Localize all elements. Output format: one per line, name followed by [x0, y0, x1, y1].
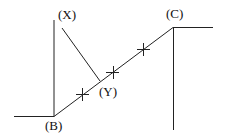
tick-mark [106, 66, 119, 79]
label-b: (B) [45, 118, 62, 133]
label-c: (C) [166, 6, 183, 21]
label-x: (X) [58, 7, 76, 22]
tick-mark [137, 43, 150, 56]
label-y: (Y) [99, 84, 117, 99]
line-x-to-y [62, 28, 100, 81]
slope-diagram: (X) (C) (Y) (B) [0, 0, 227, 138]
